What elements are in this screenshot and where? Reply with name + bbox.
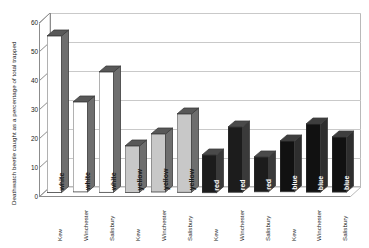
- y-axis-tick-label: 20: [16, 136, 38, 142]
- bar[interactable]: white: [47, 36, 62, 193]
- bar[interactable]: white: [99, 72, 114, 192]
- x-axis-site-label: Winchester: [83, 210, 89, 241]
- y-axis-tick-label: 10: [16, 165, 38, 171]
- bar-3d-faces: [306, 114, 334, 194]
- y-axis-tick-label: 60: [16, 20, 38, 26]
- y-axis-tick-label: 40: [16, 78, 38, 84]
- x-axis-site-label: Winchester: [239, 210, 245, 241]
- bar[interactable]: yellow: [151, 134, 166, 192]
- x-axis-site-label: Salisbury: [265, 216, 271, 241]
- gridline: [50, 71, 361, 72]
- x-axis-site-label: Kew: [135, 229, 141, 241]
- bar[interactable]: red: [202, 155, 217, 193]
- x-axis-site-label: Kew: [291, 229, 297, 241]
- plot-area: whitewhitewhiteyellowyellowyellowredredr…: [39, 13, 361, 197]
- bar-3d-faces: [125, 136, 153, 194]
- x-axis-baseline: [39, 196, 350, 197]
- y-axis-tick-label: 30: [16, 107, 38, 113]
- x-axis-site-label: Salisbury: [342, 216, 348, 241]
- gridline: [50, 13, 361, 14]
- gridline: [50, 42, 361, 43]
- y-axis-tick-labels: 0102030405060: [14, 0, 38, 248]
- bar[interactable]: blue: [306, 124, 321, 192]
- y-axis-tick-label: 50: [16, 49, 38, 55]
- bar-3d-faces: [202, 145, 230, 195]
- bar-chart: Deathwatch beetle caught as a percentage…: [0, 0, 369, 248]
- x-axis-site-label: Salisbury: [109, 216, 115, 241]
- x-axis-site-label: Kew: [57, 229, 63, 241]
- x-axis-site-label: Salisbury: [187, 216, 193, 241]
- y-axis-tick-label: 0: [16, 194, 38, 200]
- bar-3d-faces: [228, 117, 256, 194]
- bar[interactable]: red: [228, 127, 243, 192]
- bar[interactable]: blue: [332, 137, 347, 192]
- bar-3d-faces: [47, 26, 75, 195]
- bar-3d-faces: [177, 104, 205, 194]
- x-axis-site-label: Winchester: [316, 210, 322, 241]
- bar-3d-faces: [280, 131, 308, 194]
- bar-3d-faces: [254, 147, 282, 194]
- bar[interactable]: blue: [280, 141, 295, 192]
- bar-3d-faces: [73, 92, 101, 194]
- bar[interactable]: yellow: [125, 146, 140, 192]
- bar-3d-faces: [332, 127, 360, 194]
- y-axis-title-container: Deathwatch beetle caught as a percentage…: [0, 0, 14, 210]
- bar-3d-faces: [99, 62, 127, 194]
- bar[interactable]: red: [254, 157, 269, 192]
- y-axis-front-line: [39, 24, 40, 197]
- bar-3d-faces: [151, 124, 179, 194]
- bar[interactable]: yellow: [177, 114, 192, 192]
- x-axis-site-label: Kew: [213, 229, 219, 241]
- x-axis-site-label: Winchester: [161, 210, 167, 241]
- bar[interactable]: white: [73, 102, 88, 192]
